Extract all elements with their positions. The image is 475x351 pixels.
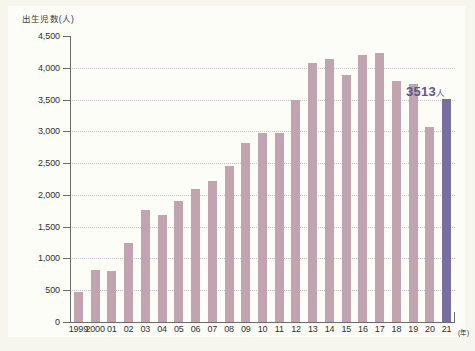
x-tick-label-18: 18 [392, 324, 402, 334]
bar-06[interactable] [191, 189, 200, 322]
x-tick-label-04: 04 [157, 324, 167, 334]
y-axis-title: 出生児数(人) [22, 12, 74, 24]
y-tick-label: 500 [14, 285, 60, 295]
highlight-value-number: 3513 [406, 84, 436, 99]
bar-09[interactable] [241, 143, 250, 322]
x-tick-label-2000: 2000 [85, 324, 104, 334]
y-tick-mark-3500 [63, 100, 70, 101]
y-tick-label: 4,500 [14, 31, 60, 41]
x-tick-label-15: 15 [341, 324, 351, 334]
bar-05[interactable] [174, 201, 183, 322]
y-tick-label: 1,500 [14, 222, 60, 232]
bar-2000[interactable] [91, 270, 100, 322]
y-tick-mark-1500 [63, 227, 70, 228]
x-tick-label-09: 09 [241, 324, 251, 334]
bar-07[interactable] [208, 181, 217, 322]
birth-count-bar-chart: 出生児数(人) 4,5004,0003,5003,0002,5002,0001,… [0, 0, 475, 351]
bar-04[interactable] [158, 215, 167, 322]
y-tick-mark-1000 [63, 258, 70, 259]
x-tick-label-02: 02 [124, 324, 134, 334]
x-tick-label-06: 06 [191, 324, 201, 334]
x-tick-label-17: 17 [375, 324, 385, 334]
y-tick-label: 1,000 [14, 253, 60, 263]
bar-03[interactable] [141, 210, 150, 322]
y-tick-label: 2,000 [14, 190, 60, 200]
y-tick-mark-2000 [63, 195, 70, 196]
bar-11[interactable] [275, 133, 284, 322]
y-axis-tick-labels: 4,5004,0003,5003,0002,5002,0001,5001,000… [8, 36, 60, 323]
bar-21[interactable] [442, 99, 451, 322]
bar-12[interactable] [291, 100, 300, 322]
highlight-value-unit: 人 [436, 88, 445, 98]
bar-08[interactable] [225, 166, 234, 322]
bar-01[interactable] [107, 271, 116, 322]
x-tick-label-08: 08 [224, 324, 234, 334]
y-tick-label: 3,000 [14, 126, 60, 136]
x-tick-label-14: 14 [325, 324, 335, 334]
bar-1999[interactable] [74, 292, 83, 322]
bar-10[interactable] [258, 133, 267, 322]
y-tick-mark-3000 [63, 131, 70, 132]
x-axis-tick-labels: 1999200001020304050607080910111213141516… [70, 324, 462, 340]
y-tick-mark-4500 [63, 36, 70, 37]
y-tick-label: 0 [14, 317, 60, 327]
bar-19[interactable] [409, 84, 418, 322]
x-tick-label-12: 12 [291, 324, 301, 334]
bar-16[interactable] [358, 55, 367, 322]
y-tick-mark-500 [63, 290, 70, 291]
x-tick-label-21: 21 [442, 324, 452, 334]
x-tick-label-11: 11 [275, 324, 284, 334]
x-axis-line [70, 322, 455, 323]
bar-15[interactable] [342, 75, 351, 322]
x-tick-label-07: 07 [207, 324, 217, 334]
x-tick-label-13: 13 [308, 324, 318, 334]
x-tick-label-20: 20 [425, 324, 435, 334]
y-tick-label: 2,500 [14, 158, 60, 168]
x-tick-label-16: 16 [358, 324, 368, 334]
x-tick-label-19: 19 [408, 324, 418, 334]
highlight-value-annotation: 3513人 [406, 84, 445, 99]
paper-edge-left [0, 0, 8, 351]
bar-series [70, 36, 455, 322]
y-tick-mark-0 [63, 322, 70, 323]
x-tick-label-03: 03 [141, 324, 151, 334]
y-tick-label: 3,500 [14, 95, 60, 105]
x-tick-label-01: 01 [107, 324, 117, 334]
bar-20[interactable] [425, 127, 434, 322]
paper-edge-right [465, 0, 475, 351]
x-tick-label-05: 05 [174, 324, 184, 334]
bar-14[interactable] [325, 59, 334, 322]
y-tick-mark-2500 [63, 163, 70, 164]
y-tick-mark-4000 [63, 68, 70, 69]
bar-02[interactable] [124, 243, 133, 322]
paper-edge-top [0, 0, 475, 6]
bar-17[interactable] [375, 53, 384, 322]
x-axis-unit-label: (年) [458, 327, 469, 337]
bar-13[interactable] [308, 63, 317, 322]
y-tick-label: 4,000 [14, 63, 60, 73]
bar-18[interactable] [392, 81, 401, 323]
x-axis-endcap [454, 312, 455, 323]
x-tick-label-10: 10 [258, 324, 268, 334]
